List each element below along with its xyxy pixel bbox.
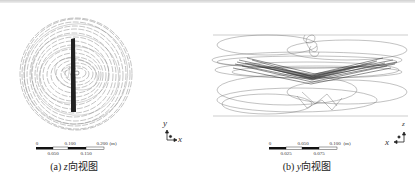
scale-label-bottom-0: 0.025 — [280, 151, 291, 156]
scale-label-top-1: 0.050 — [297, 141, 308, 146]
axis-label-horizontal-a: x — [178, 134, 182, 144]
scale-label-top-2: 0.100 — [329, 141, 340, 146]
scale-bar-b — [269, 147, 337, 150]
impeller-blade — [71, 38, 76, 112]
streamline-plot-side-view — [207, 0, 415, 181]
axis-triad-a — [166, 130, 178, 142]
scale-label-top-0: 0 — [269, 141, 272, 146]
scale-bar-a — [36, 147, 104, 150]
axis-triad-b — [394, 132, 406, 144]
scale-unit: (m) — [343, 141, 350, 146]
panel-a-z-view: 0 0.100 0.200 (m) 0.050 0.150 y x (a) z向… — [0, 0, 207, 181]
scale-label-bottom-1: 0.075 — [313, 151, 324, 156]
scale-unit: (m) — [109, 141, 116, 146]
axis-label-vertical-b: z — [402, 120, 405, 128]
scale-label-top-1: 0.100 — [64, 141, 75, 146]
caption-a: (a) z向视图 — [50, 158, 98, 173]
scale-label-bottom-1: 0.150 — [80, 151, 91, 156]
panel-b-y-view: 0 0.050 0.100 (m) 0.025 0.075 z x (b) y向… — [207, 0, 415, 181]
streamline-plot-top-view — [0, 0, 207, 181]
scale-label-top-0: 0 — [36, 141, 39, 146]
axis-label-horizontal-b: x — [385, 137, 389, 147]
caption-b: (b) y向视图 — [283, 158, 332, 173]
axis-label-vertical-a: y — [163, 118, 167, 128]
scale-label-top-2: 0.200 — [96, 141, 107, 146]
scale-label-bottom-0: 0.050 — [47, 151, 58, 156]
